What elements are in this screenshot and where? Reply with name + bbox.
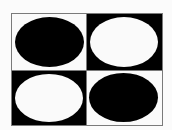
black-ellipse bbox=[89, 73, 158, 122]
black-ellipse bbox=[15, 17, 84, 67]
ellipse-checkerboard-grid bbox=[11, 13, 163, 126]
cell-bottom-left bbox=[12, 71, 87, 125]
cell-bottom-right bbox=[87, 71, 162, 125]
cell-top-left bbox=[12, 14, 87, 71]
white-ellipse bbox=[90, 17, 158, 67]
cell-top-right bbox=[87, 14, 162, 71]
white-ellipse bbox=[15, 74, 83, 122]
